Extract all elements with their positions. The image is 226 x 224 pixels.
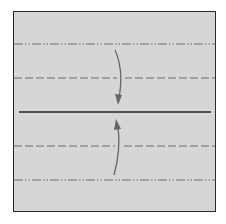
fold-diagram (0, 0, 226, 224)
